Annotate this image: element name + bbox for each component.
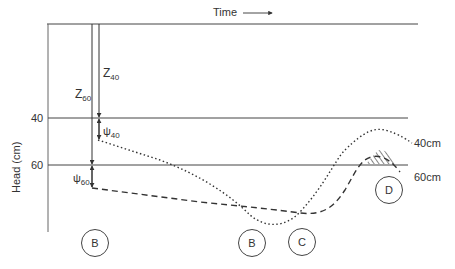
series-label-60cm: 60cm <box>414 172 441 183</box>
marker-d: D <box>375 176 403 204</box>
tick-40: 40 <box>31 113 43 124</box>
z60-label: Z60 <box>75 88 91 103</box>
marker-b-left: B <box>81 229 109 257</box>
marker-c: C <box>288 228 316 256</box>
psi40-label: ψ40 <box>103 126 120 140</box>
time-label: Time <box>213 7 237 18</box>
marker-b-right: B <box>238 229 266 257</box>
series-label-40cm: 40cm <box>414 138 441 149</box>
diagram-canvas <box>0 0 455 269</box>
tick-60: 60 <box>31 160 43 171</box>
z40-label: Z40 <box>103 67 119 82</box>
psi60-label: ψ60 <box>73 173 90 187</box>
curve-40cm <box>98 129 412 224</box>
y-axis-label: Head (cm) <box>10 142 22 193</box>
